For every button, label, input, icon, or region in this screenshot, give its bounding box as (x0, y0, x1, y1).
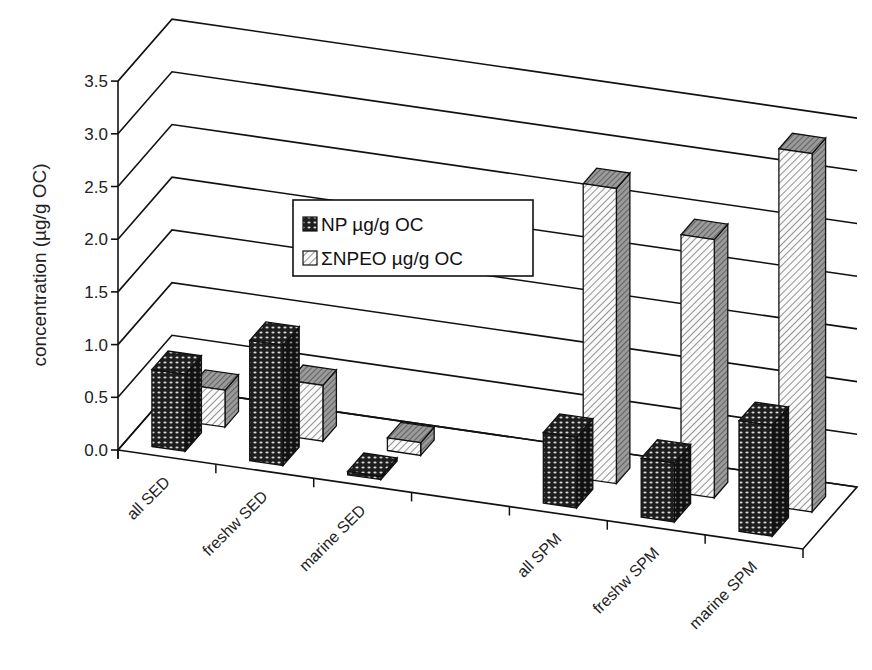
gridline (118, 19, 857, 118)
legend-label: NP µg/g OC (321, 214, 423, 235)
x-category-label: marine SED (296, 501, 369, 574)
bar-front-face (250, 341, 283, 466)
legend-swatch-np (303, 217, 317, 231)
y-axis-title: concentration (µg/g OC) (29, 163, 50, 366)
y-tick-label: 2.0 (84, 230, 108, 249)
x-category-label: freshw SED (199, 487, 271, 559)
x-category-label: all SED (123, 473, 173, 523)
bar-np (543, 414, 593, 508)
bar-side-face (616, 173, 630, 484)
legend: NP µg/g OCΣNPEO µg/g OC (293, 200, 533, 276)
y-tick-label: 1.5 (84, 283, 108, 302)
bar-chart-3d: 0.00.51.01.52.02.53.03.5concentration (µ… (0, 0, 872, 670)
x-category-label: all SPM (513, 530, 564, 581)
x-category-label: freshw SPM (589, 544, 662, 617)
bar-front-face (152, 370, 185, 452)
legend-label: ΣNPEO µg/g OC (321, 248, 463, 269)
bar-front-face (641, 458, 674, 522)
bar-side-face (283, 327, 299, 466)
y-tick-label: 2.5 (84, 178, 108, 197)
gridline (118, 72, 857, 171)
bar-side-face (714, 224, 728, 498)
bar-side-face (772, 407, 788, 536)
bar-front-face (739, 421, 772, 537)
bar-np (250, 322, 300, 466)
y-tick-label: 0.5 (84, 388, 108, 407)
bar-np (641, 440, 690, 522)
bar-np (739, 402, 789, 536)
y-tick-label: 0.0 (84, 441, 108, 460)
x-category-label: marine SPM (686, 558, 760, 632)
bar-np (152, 351, 202, 451)
legend-swatch-npeo (303, 251, 317, 265)
gridline (118, 283, 857, 382)
y-tick-label: 1.0 (84, 336, 108, 355)
bar-side-face (812, 138, 826, 512)
y-tick-label: 3.0 (84, 125, 108, 144)
y-tick-label: 3.5 (84, 72, 108, 91)
bar-front-face (543, 433, 576, 508)
